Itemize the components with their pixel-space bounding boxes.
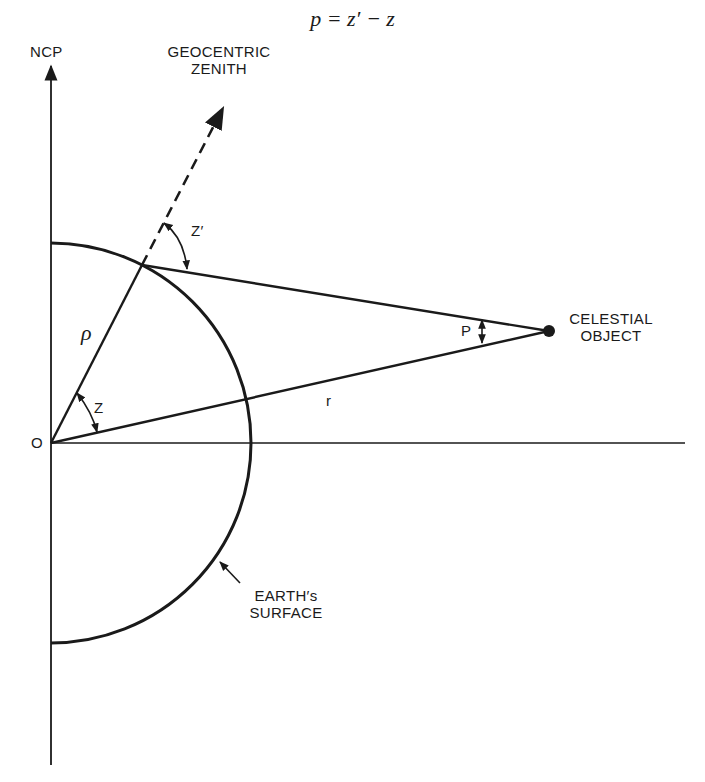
r-label: r	[326, 392, 331, 409]
origin-label: O	[31, 434, 43, 451]
rho-label: ρ	[81, 320, 92, 346]
r-line	[51, 331, 549, 443]
zenith-dashed-line	[142, 108, 223, 265]
earth-surface-label: EARTH′s SURFACE	[234, 587, 338, 621]
celestial-object-dot	[543, 325, 555, 337]
surface-pointer-arrow	[220, 562, 240, 583]
observer-object-line	[142, 265, 549, 331]
rho-line	[51, 265, 142, 443]
z-prime-angle-arc	[164, 223, 187, 269]
p-label: P	[461, 322, 471, 339]
z-label: Z	[94, 399, 103, 416]
geocentric-zenith-label: GEOCENTRIC ZENITH	[154, 43, 284, 77]
z-prime-label: Z′	[191, 222, 204, 239]
parallax-diagram: p = z′ − z	[0, 0, 705, 782]
ncp-label: NCP	[30, 43, 63, 60]
diagram-graphics	[0, 0, 705, 782]
celestial-object-label: CELESTIAL OBJECT	[556, 310, 666, 344]
